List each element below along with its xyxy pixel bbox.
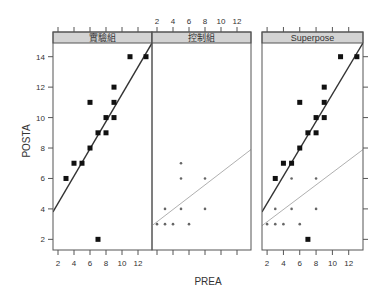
data-point (96, 130, 101, 135)
x-tick-label: 2 (265, 259, 270, 268)
data-point (289, 161, 294, 166)
chart-svg: 實驗組24681012控制組24681012Superpose246810122… (0, 0, 385, 302)
y-tick-label: 10 (36, 114, 45, 123)
panel-border (262, 32, 363, 250)
data-point (314, 130, 319, 135)
x-tick-label: 6 (298, 259, 303, 268)
y-tick-label: 6 (41, 174, 46, 183)
plot-area (152, 150, 251, 226)
data-point (266, 223, 269, 226)
data-point (144, 54, 149, 59)
data-point (128, 54, 133, 59)
data-point (204, 208, 207, 211)
data-point (297, 100, 302, 105)
data-point (338, 54, 343, 59)
data-point (172, 223, 175, 226)
data-point (273, 176, 278, 181)
x-tick-label: 2 (56, 259, 61, 268)
x-tick-label: 12 (233, 17, 242, 26)
y-tick-label: 14 (36, 53, 45, 62)
x-tick-label: 6 (88, 259, 93, 268)
data-point (204, 177, 207, 180)
y-tick-label: 8 (41, 144, 46, 153)
data-point (96, 237, 101, 242)
x-tick-label: 12 (134, 259, 143, 268)
data-point (72, 161, 77, 166)
data-point (322, 100, 327, 105)
y-axis-label: POSTA (21, 124, 32, 157)
x-tick-label: 8 (314, 259, 319, 268)
data-point (88, 100, 93, 105)
data-point (80, 161, 85, 166)
data-point (322, 85, 327, 90)
data-point (297, 146, 302, 151)
panel-border (152, 32, 251, 250)
plot-area (262, 43, 363, 242)
x-tick-label: 8 (203, 17, 208, 26)
x-axis-label: PREA (194, 276, 222, 287)
panel-1: 實驗組24681012 (53, 27, 152, 268)
data-point (164, 223, 167, 226)
x-tick-label: 10 (217, 17, 226, 26)
data-point (180, 177, 183, 180)
data-point (64, 176, 69, 181)
data-point (305, 130, 310, 135)
data-point (290, 177, 293, 180)
data-point (112, 115, 117, 120)
data-point (305, 237, 310, 242)
x-tick-label: 4 (281, 259, 286, 268)
panel-3: Superpose24681012 (262, 27, 363, 268)
strip-label: 實驗組 (89, 32, 116, 43)
x-tick-label: 12 (344, 259, 353, 268)
data-point (188, 223, 191, 226)
x-tick-label: 6 (187, 17, 192, 26)
data-point (354, 54, 359, 59)
x-tick-label: 4 (171, 17, 176, 26)
lattice-scatter-chart: 實驗組24681012控制組24681012Superpose246810122… (0, 0, 385, 302)
x-tick-label: 4 (72, 259, 77, 268)
x-tick-label: 2 (155, 17, 160, 26)
strip-label: 控制組 (188, 32, 215, 43)
x-tick-label: 10 (118, 259, 127, 268)
data-point (281, 161, 286, 166)
data-point (104, 130, 109, 135)
data-point (290, 208, 293, 211)
experimental-regression-line (262, 43, 363, 212)
y-tick-label: 4 (41, 205, 46, 214)
data-point (112, 85, 117, 90)
data-point (112, 100, 117, 105)
data-point (282, 223, 285, 226)
y-tick-label: 12 (36, 83, 45, 92)
data-point (274, 223, 277, 226)
control-regression-line (152, 150, 251, 226)
plot-area (53, 43, 152, 242)
data-point (298, 223, 301, 226)
data-point (156, 223, 159, 226)
data-point (322, 115, 327, 120)
data-point (314, 115, 319, 120)
x-tick-label: 10 (328, 259, 337, 268)
panel-2: 控制組24681012 (152, 17, 251, 255)
y-tick-label: 2 (41, 235, 46, 244)
data-point (180, 208, 183, 211)
x-tick-label: 8 (104, 259, 109, 268)
data-point (180, 162, 183, 165)
data-point (274, 208, 277, 211)
experimental-regression-line (53, 43, 152, 212)
data-point (315, 208, 318, 211)
data-point (164, 208, 167, 211)
data-point (315, 177, 318, 180)
strip-label: Superpose (291, 33, 335, 43)
data-point (88, 146, 93, 151)
panel-border (53, 32, 152, 250)
data-point (104, 115, 109, 120)
